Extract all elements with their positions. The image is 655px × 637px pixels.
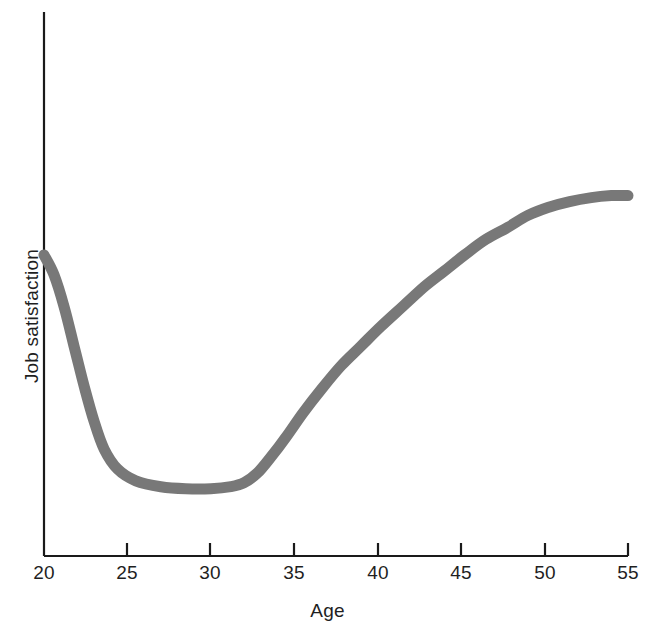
x-tick-label-25: 25 <box>97 562 157 584</box>
x-axis-title: Age <box>0 600 655 622</box>
x-tick-label-45: 45 <box>431 562 491 584</box>
x-axis-ticks <box>127 543 628 556</box>
x-tick-label-35: 35 <box>264 562 324 584</box>
y-axis-title: Job satisfaction <box>21 221 43 411</box>
job-satisfaction-curve <box>44 195 628 488</box>
chart-plot-area <box>0 0 655 637</box>
x-tick-label-50: 50 <box>515 562 575 584</box>
chart-figure: 20 25 30 35 40 45 50 55 Age Job satisfac… <box>0 0 655 637</box>
x-tick-label-55: 55 <box>598 562 655 584</box>
x-tick-label-40: 40 <box>348 562 408 584</box>
x-tick-label-30: 30 <box>180 562 240 584</box>
x-tick-label-20: 20 <box>14 562 74 584</box>
